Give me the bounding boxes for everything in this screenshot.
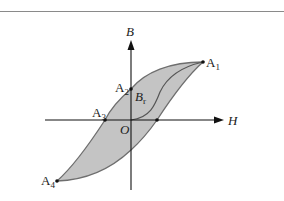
point-a1-marker (201, 60, 205, 64)
h-axis-arrow-icon (214, 117, 224, 124)
origin-label: O (120, 122, 130, 137)
label-a1: A1 (206, 55, 220, 72)
point-a4-marker (55, 179, 59, 183)
coercive-point-marker (155, 118, 159, 122)
label-a3: A3 (92, 105, 106, 122)
hysteresis-diagram: B H O A1 A2 A3 A4 Br (0, 0, 284, 201)
hysteresis-loop-area (57, 62, 203, 181)
point-a2-marker (129, 87, 133, 91)
label-a2: A2 (115, 80, 129, 97)
b-axis-label: B (126, 24, 134, 39)
h-axis-label: H (227, 113, 238, 128)
b-axis-arrow-icon (128, 40, 135, 50)
label-a4: A4 (41, 173, 55, 190)
